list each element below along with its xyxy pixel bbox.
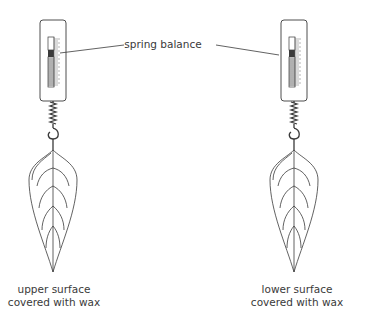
right-callout-line <box>216 45 279 55</box>
right-caption-line1: lower surface <box>251 283 343 296</box>
right-caption-line2: covered with wax <box>251 296 343 309</box>
right-spring-balance-icon <box>281 20 307 150</box>
left-caption-line1: upper surface <box>8 283 100 296</box>
left-caption: upper surface covered with wax <box>8 283 100 309</box>
right-leaf-icon <box>270 150 318 272</box>
spring-balance-label: spring balance <box>124 38 201 51</box>
left-callout-line <box>60 45 124 53</box>
right-caption: lower surface covered with wax <box>251 283 343 309</box>
left-leaf-icon <box>29 150 77 272</box>
left-caption-line2: covered with wax <box>8 296 100 309</box>
left-spring-balance-icon <box>40 20 66 150</box>
